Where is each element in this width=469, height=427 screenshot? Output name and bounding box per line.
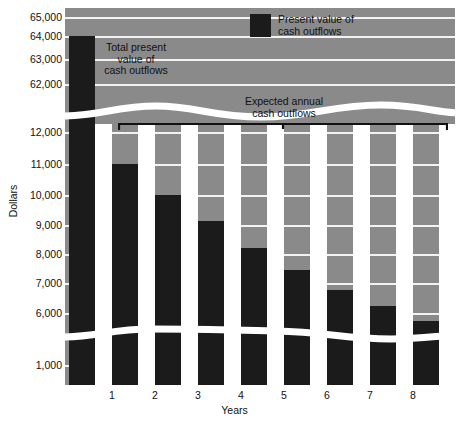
y-tick-62000: 62,000 bbox=[0, 79, 62, 90]
gridline-62000 bbox=[65, 84, 455, 86]
gap-column-8 bbox=[439, 124, 455, 385]
y-tick-7000: 7,000 bbox=[0, 278, 62, 289]
gap-column-6 bbox=[353, 124, 370, 385]
x-tick-6: 6 bbox=[307, 389, 347, 401]
x-tick-1: 1 bbox=[92, 389, 132, 401]
gap-column-0 bbox=[95, 124, 112, 385]
bar-total-present-value bbox=[69, 36, 95, 385]
x-tick-3: 3 bbox=[178, 389, 218, 401]
y-tick-1000: 1,000 bbox=[0, 360, 62, 371]
cash-outflow-bar-chart: 65,000 64,000 63,000 62,000 12,000 11,00… bbox=[0, 0, 469, 427]
expected-annual-bracket bbox=[118, 121, 448, 130]
bar-year-8 bbox=[413, 321, 439, 385]
gap-column-3 bbox=[224, 124, 241, 385]
bar-year-3 bbox=[198, 221, 224, 385]
bar-year-5 bbox=[284, 270, 310, 385]
y-tick-64000: 64,000 bbox=[0, 31, 62, 42]
gap-column-2 bbox=[181, 124, 198, 385]
x-axis-title: Years bbox=[0, 404, 469, 416]
x-tick-8: 8 bbox=[393, 389, 433, 401]
x-tick-7: 7 bbox=[350, 389, 390, 401]
y-axis-title: Dollars bbox=[7, 166, 19, 236]
gap-column-7 bbox=[396, 124, 413, 385]
x-tick-2: 2 bbox=[135, 389, 175, 401]
gap-column-5 bbox=[310, 124, 327, 385]
annotation-total-present-value: Total present value of cash outflows bbox=[98, 42, 174, 77]
bar-year-6 bbox=[327, 290, 353, 385]
y-tick-8000: 8,000 bbox=[0, 249, 62, 260]
x-tick-5: 5 bbox=[264, 389, 304, 401]
bar-year-2 bbox=[155, 195, 181, 385]
gap-column-1 bbox=[138, 124, 155, 385]
chart-legend: Present value of cash outflows bbox=[250, 14, 354, 37]
bar-year-4 bbox=[241, 248, 267, 385]
y-tick-6000: 6,000 bbox=[0, 308, 62, 319]
annotation-expected-annual: Expected annual cash outflows bbox=[232, 96, 336, 119]
gap-column-4 bbox=[267, 124, 284, 385]
y-tick-63000: 63,000 bbox=[0, 54, 62, 65]
legend-swatch-present-value bbox=[250, 14, 271, 37]
y-tick-12000: 12,000 bbox=[0, 127, 62, 138]
bar-year-1 bbox=[112, 164, 138, 385]
y-tick-65000: 65,000 bbox=[0, 12, 62, 23]
legend-label-present-value: Present value of cash outflows bbox=[278, 14, 354, 37]
x-tick-4: 4 bbox=[221, 389, 261, 401]
bar-year-7 bbox=[370, 306, 396, 385]
